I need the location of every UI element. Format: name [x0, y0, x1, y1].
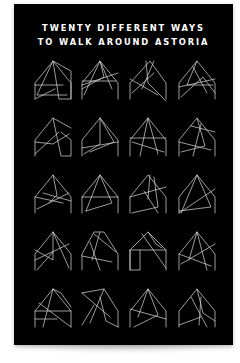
walk-diagram-18: [80, 287, 120, 329]
walk-diagram-2: [80, 59, 120, 101]
walk-diagram-20: [177, 287, 217, 329]
walk-diagram-15: [128, 230, 168, 272]
walk-diagram-16: [177, 230, 217, 272]
walk-diagram-4: [177, 59, 217, 101]
walk-diagram-6: [80, 116, 120, 158]
walk-diagram-1: [33, 59, 73, 101]
walk-diagram-3: [128, 59, 168, 101]
walk-diagram-17: [33, 287, 73, 329]
walk-diagram-8: [177, 116, 217, 158]
poster: TWENTY DIFFERENT WAYS TO WALK AROUND AST…: [14, 4, 233, 345]
walk-diagram-grid: [14, 4, 233, 345]
walk-diagram-7: [128, 116, 168, 158]
walk-diagram-5: [33, 116, 73, 158]
walk-diagram-12: [177, 173, 217, 215]
walk-diagram-11: [128, 173, 168, 215]
walk-diagram-10: [80, 173, 120, 215]
walk-diagram-14: [80, 230, 120, 272]
walk-diagram-19: [128, 287, 168, 329]
walk-diagram-13: [33, 230, 73, 272]
walk-diagram-9: [33, 173, 73, 215]
